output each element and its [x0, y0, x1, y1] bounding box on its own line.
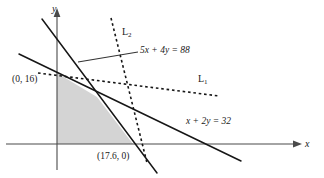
- point-label-y-intercept: (0, 16): [12, 75, 37, 85]
- equation-x-2y-32-label: x + 2y = 32: [186, 117, 231, 127]
- line-l2-label-subscript: 2: [128, 31, 132, 39]
- line-l1-label: L1: [198, 74, 208, 86]
- graph-canvas: [0, 0, 324, 178]
- line-l2-label: L2: [122, 27, 132, 39]
- feasible-region-figure: y x L2 L1 5x + 4y = 88 x + 2y = 32 (0, 1…: [0, 0, 324, 178]
- line-l1-label-subscript: 1: [204, 78, 208, 86]
- point-label-x-intercept: (17.6, 0): [97, 152, 129, 162]
- line-x-2y-32: [19, 54, 241, 161]
- y-axis-label: y: [52, 4, 56, 14]
- x-axis-label: x: [305, 139, 309, 149]
- shaded-feasible-region: [57, 73, 133, 144]
- equation-5x-4y-88-label: 5x + 4y = 88: [140, 46, 190, 56]
- x-axis-arrowhead: [293, 141, 302, 148]
- equation-a-leader-line: [78, 52, 138, 62]
